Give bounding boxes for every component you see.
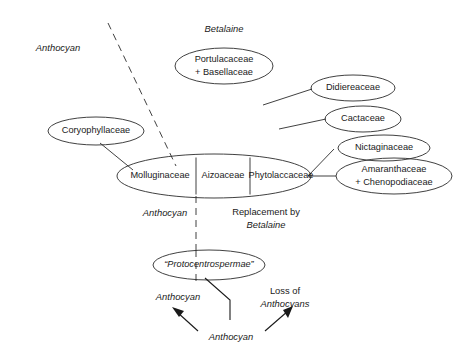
label-anthocyan-bottom: Anthocyan <box>208 331 253 342</box>
ellipse-portulacaceae <box>175 48 273 84</box>
label-protocentrospermae: “Protocentrospermae” <box>164 259 254 269</box>
phylogeny-diagram: Molluginaceae Aizoaceae Phytolaccaceae C… <box>0 0 462 356</box>
label-portulacaceae-line1: Portulacaceae <box>195 54 254 64</box>
label-nictaginaceae: Nictaginaceae <box>355 142 413 152</box>
label-anthocyan-center-left: Anthocyan <box>142 207 187 218</box>
label-aizoaceae: Aizoaceae <box>202 170 245 180</box>
arrow-head-anthocyan-left <box>172 307 184 317</box>
label-phytolaccaceae: Phytolaccaceae <box>249 170 314 180</box>
dashed-boundary-anthocyan-betalaine <box>108 23 176 166</box>
arrow-line-loss-right <box>265 311 288 331</box>
connector-didiereaceae <box>263 89 312 105</box>
connector-cactaceae <box>279 119 326 129</box>
label-anthocyan-top-left: Anthocyan <box>35 42 80 53</box>
label-amaranthaceae-line2: + Chenopodiaceae <box>355 177 432 187</box>
label-amaranthaceae-line1: Amaranthaceae <box>362 164 427 174</box>
label-loss-line2: Anthocyans <box>260 298 310 309</box>
ellipse-amaranthaceae <box>336 158 452 194</box>
label-replacement-line2: Betalaine <box>246 219 285 230</box>
label-betalaine-top: Betalaine <box>204 23 243 34</box>
label-coryophyllaceae: Coryophyllaceae <box>62 125 130 135</box>
label-cactaceae: Cactaceae <box>341 113 385 123</box>
label-replacement-line1: Replacement by <box>232 206 300 217</box>
label-portulacaceae-line2: + Basellaceae <box>195 67 253 77</box>
label-didiereaceae: Didiereaceae <box>326 82 380 92</box>
label-loss-line1: Loss of <box>270 285 301 296</box>
diagram-canvas: Molluginaceae Aizoaceae Phytolaccaceae C… <box>0 0 462 356</box>
label-molluginaceae: Molluginaceae <box>130 170 189 180</box>
connector-bottom-anthocyan <box>205 278 230 320</box>
label-anthocyan-lower-left: Anthocyan <box>155 291 200 302</box>
